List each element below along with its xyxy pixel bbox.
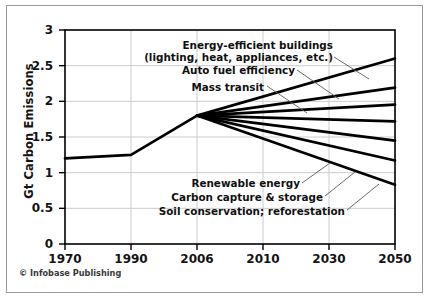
chart-plot-container: Gt Carbon Emissions 0 0.5 1 1.5 2 2.5 3 … [7, 6, 424, 294]
annotation-mass-transit: Mass transit [127, 81, 264, 93]
annotation-soil-conservation-reforestation: Soil conservation; reforestation [107, 205, 345, 217]
x-tick-label-2050: 2050 [365, 252, 425, 266]
y-tick-label-3: 3 [19, 23, 53, 37]
annotation-energy-efficient-buildings-line2: (lighting, heat, appliances, etc.) [144, 51, 333, 63]
copyright-credit: © Infobase Publishing [19, 268, 121, 278]
y-tick-label-1: 1 [19, 166, 53, 180]
x-tick-label-1990: 1990 [101, 252, 161, 266]
x-tick-label-1970: 1970 [35, 252, 95, 266]
y-axis-ticks [59, 30, 65, 244]
x-tick-label-2010: 2010 [233, 252, 293, 266]
y-tick-label-0: 0 [19, 237, 53, 251]
x-tick-label-2006: 2006 [167, 252, 227, 266]
y-tick-label-0.5: 0.5 [19, 201, 53, 215]
x-tick-label-2030: 2030 [299, 252, 359, 266]
chart-figure: Gt Carbon Emissions 0 0.5 1 1.5 2 2.5 3 … [6, 5, 423, 293]
y-tick-label-1.5: 1.5 [19, 130, 53, 144]
annotation-renewable-energy: Renewable energy [127, 177, 300, 189]
annotation-auto-fuel-efficiency: Auto fuel efficiency [127, 64, 295, 76]
x-axis-ticks [65, 244, 395, 250]
annotation-energy-efficient-buildings: Energy-efficient buildings (lighting, he… [127, 39, 333, 64]
y-tick-label-2: 2 [19, 94, 53, 108]
annotation-carbon-capture-storage: Carbon capture & storage [117, 191, 323, 203]
annotation-energy-efficient-buildings-line1: Energy-efficient buildings [182, 39, 333, 51]
y-tick-label-2.5: 2.5 [19, 59, 53, 73]
